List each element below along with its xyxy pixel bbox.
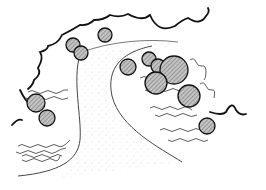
shrub — [39, 110, 55, 126]
garden-plan-illustration — [0, 0, 266, 190]
shrub — [199, 118, 215, 134]
shrub — [120, 59, 136, 75]
shrub — [145, 72, 167, 94]
shrub — [178, 85, 200, 107]
shrub — [27, 94, 45, 112]
shrub — [74, 46, 88, 60]
shrub — [98, 28, 112, 42]
garden-plan-svg — [0, 0, 266, 190]
